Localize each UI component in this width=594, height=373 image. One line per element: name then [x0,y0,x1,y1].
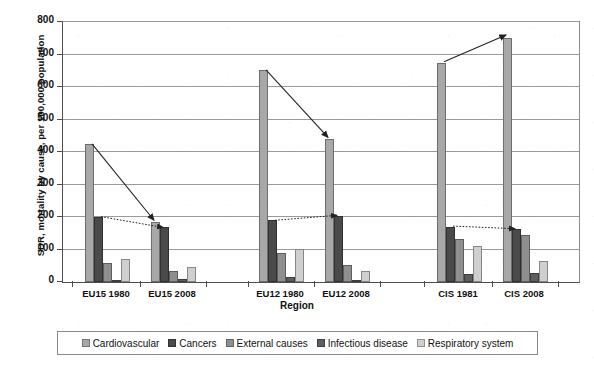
legend-label: Cardiovascular [93,338,160,349]
y-tick-mark [57,249,62,250]
x-tick-mark [558,281,559,287]
y-tick-label: 700 [14,47,54,58]
bar[interactable] [94,217,103,282]
bar-group [503,22,548,282]
chart-container: SDR, mortality by cause, per 100,000 pop… [0,0,594,373]
legend-item[interactable]: Cancers [168,338,216,349]
bar[interactable] [361,271,370,282]
y-tick-mark [57,216,62,217]
bar[interactable] [112,280,121,282]
y-tick-mark [57,281,62,282]
x-tick-mark [424,281,425,287]
bar[interactable] [187,267,196,282]
plot-area [62,21,580,283]
y-tick-label: 400 [14,144,54,155]
bar[interactable] [259,70,268,282]
y-tick-label: 800 [14,14,54,25]
legend-swatch-icon [226,339,234,347]
y-tick-label: 300 [14,177,54,188]
x-tick-mark [206,281,207,287]
x-tick-label: EU12 2008 [306,288,386,299]
legend-swatch-icon [417,339,425,347]
legend-item[interactable]: Infectious disease [317,338,408,349]
bar-group [259,22,304,282]
y-tick-mark [57,184,62,185]
bar[interactable] [539,261,548,282]
y-tick-label: 0 [14,274,54,285]
x-axis-title: Region [0,300,594,311]
bar[interactable] [530,273,539,282]
bar[interactable] [286,277,295,282]
legend-label: Cancers [179,338,216,349]
x-tick-mark [380,281,381,287]
legend-label: Infectious disease [328,338,408,349]
bar[interactable] [169,271,178,282]
bar[interactable] [85,144,94,282]
bar-group [325,22,370,282]
bar[interactable] [343,265,352,282]
legend-item[interactable]: External causes [226,338,308,349]
legend-swatch-icon [317,339,325,347]
bar-group [85,22,130,282]
legend-swatch-icon [82,339,90,347]
y-tick-mark [57,54,62,55]
bar[interactable] [455,239,464,282]
y-tick-label: 200 [14,209,54,220]
bar[interactable] [446,227,455,282]
y-tick-label: 600 [14,79,54,90]
bar[interactable] [151,222,160,282]
bar[interactable] [268,220,277,282]
bar[interactable] [512,229,521,282]
x-tick-mark [72,281,73,287]
bar[interactable] [352,280,361,282]
bar[interactable] [334,216,343,282]
x-tick-label: CIS 2008 [484,288,564,299]
y-tick-mark [57,21,62,22]
y-tick-mark [57,151,62,152]
bar[interactable] [121,259,130,282]
legend-swatch-icon [168,339,176,347]
y-tick-label: 500 [14,112,54,123]
x-tick-mark [248,281,249,287]
bar[interactable] [325,139,334,282]
bar[interactable] [464,274,473,282]
bar[interactable] [473,246,482,282]
chart-legend: CardiovascularCancersExternal causesInfe… [57,331,538,355]
x-tick-mark [140,281,141,287]
x-tick-label: EU15 2008 [132,288,212,299]
x-tick-mark [314,281,315,287]
legend-item[interactable]: Respiratory system [417,338,514,349]
bar[interactable] [277,253,286,282]
bar[interactable] [103,263,112,283]
bar-group [437,22,482,282]
legend-label: External causes [237,338,308,349]
y-tick-mark [57,119,62,120]
y-tick-label: 100 [14,242,54,253]
legend-item[interactable]: Cardiovascular [82,338,160,349]
bar[interactable] [160,227,169,282]
bar[interactable] [521,235,530,282]
y-tick-mark [57,86,62,87]
legend-label: Respiratory system [428,338,514,349]
bar[interactable] [178,279,187,282]
bar[interactable] [437,63,446,282]
x-tick-mark [492,281,493,287]
bar[interactable] [295,249,304,282]
bar[interactable] [503,38,512,282]
bar-group [151,22,196,282]
